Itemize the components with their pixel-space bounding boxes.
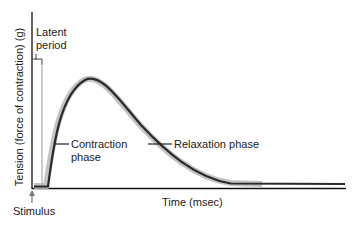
latent-label-line2: period [36,39,67,51]
stimulus-arrow-icon [29,190,35,203]
contraction-label-line2: phase [71,151,101,163]
x-axis-label: Time (msec) [162,196,223,208]
stimulus-label: Stimulus [13,205,55,217]
relaxation-label: Relaxation phase [174,138,259,150]
contraction-label-line1: Contraction [71,138,127,150]
latent-period-bracket [32,54,42,186]
y-axis-label: Tension (force of contraction) (g) [13,22,25,192]
latent-label-line1: Latent [36,26,67,38]
